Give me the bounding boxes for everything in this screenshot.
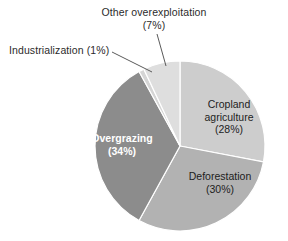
pie-label-other-overexploitation-name: Other overexploitation [102,6,207,18]
pie-label-cropland-line1: Cropland [186,98,272,111]
pie-label-overgrazing: Overgrazing (34%) [70,132,174,157]
pie-label-other-overexploitation-value: (7%) [92,19,216,32]
pie-chart-figure: Other overexploitation (7%) Industrializ… [0,0,288,241]
pie-label-cropland-line2: agriculture [186,111,272,124]
pie-label-cropland-value: (28%) [186,123,272,136]
pie-label-deforestation-name: Deforestation [168,170,272,183]
pie-label-overgrazing-name: Overgrazing [70,132,174,145]
pie-label-cropland-agriculture: Cropland agriculture (28%) [186,98,272,136]
leader-line-other-overexploitation [157,34,166,66]
pie-label-other-overexploitation: Other overexploitation (7%) [92,6,216,31]
pie-label-overgrazing-value: (34%) [70,145,174,158]
pie-label-deforestation-value: (30%) [168,183,272,196]
pie-label-industrialization-text: Industrialization (1%) [9,44,109,56]
leader-line-industrialization [112,52,152,72]
pie-label-deforestation: Deforestation (30%) [168,170,272,195]
pie-label-industrialization: Industrialization (1%) [9,44,109,57]
